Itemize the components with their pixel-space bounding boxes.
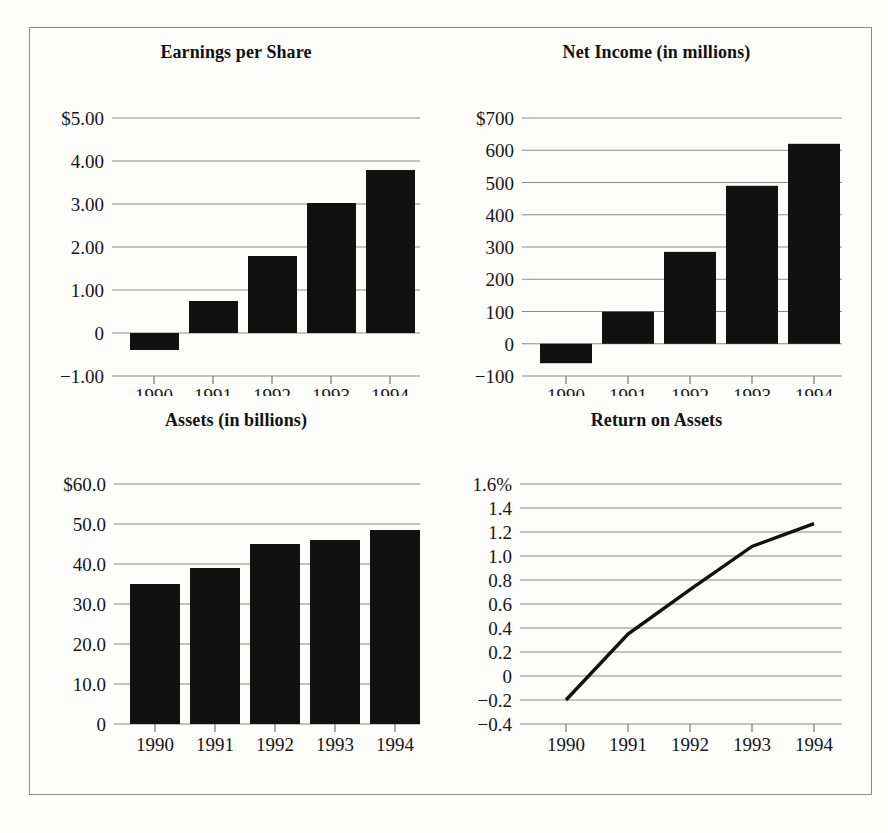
svg-text:0.2: 0.2	[488, 642, 512, 663]
svg-text:0.6: 0.6	[488, 594, 512, 615]
ytick-labels-ni: $700 600 500 400 300 200 100 0 −100	[475, 108, 514, 387]
bar-assets-1990	[130, 584, 180, 724]
chart-svg-eps: $5.00 4.00 3.00 2.00 1.00 0 −1.00	[30, 76, 442, 396]
svg-text:1.00: 1.00	[71, 280, 104, 301]
svg-text:1994: 1994	[376, 734, 415, 755]
bar-eps-1993	[307, 203, 356, 333]
svg-text:$60.0: $60.0	[63, 474, 106, 495]
xticks-ni	[566, 376, 814, 384]
ytick-labels-roa: 1.6% 1.4 1.2 1.0 0.8 0.6 0.4 0.2 0 −0.2 …	[472, 474, 512, 735]
xticks-eps	[154, 376, 390, 384]
svg-text:2.00: 2.00	[71, 237, 104, 258]
svg-text:1.6%: 1.6%	[472, 474, 512, 495]
bar-eps-1994	[366, 170, 415, 333]
panel-return-on-assets: Return on Assets	[442, 398, 871, 796]
panel-title-earnings-per-share: Earnings per Share	[30, 42, 442, 63]
plot-assets: $60.0 50.0 40.0 30.0 20.0 10.0 0	[30, 444, 442, 774]
svg-text:0: 0	[97, 714, 107, 735]
svg-text:0: 0	[505, 334, 515, 355]
bar-assets-1991	[190, 568, 240, 724]
svg-text:30.0: 30.0	[73, 594, 106, 615]
svg-text:1990: 1990	[135, 385, 173, 396]
line-series-roa	[566, 524, 814, 700]
panel-title-net-income: Net Income (in millions)	[442, 42, 871, 63]
svg-text:1993: 1993	[733, 385, 771, 396]
panel-title-assets: Assets (in billions)	[30, 410, 442, 431]
svg-text:100: 100	[486, 302, 515, 323]
bar-assets-1993	[310, 540, 360, 724]
bar-ni-1991	[602, 312, 654, 344]
figure-frame: Earnings per Share $5.00	[29, 27, 872, 795]
svg-text:−100: −100	[475, 366, 514, 387]
svg-text:1991: 1991	[196, 734, 234, 755]
figure-page: Earnings per Share $5.00	[0, 0, 888, 833]
bar-eps-1992	[248, 256, 297, 333]
svg-text:1994: 1994	[371, 385, 410, 396]
svg-text:1991: 1991	[609, 734, 647, 755]
svg-text:400: 400	[486, 205, 515, 226]
bar-assets-1992	[250, 544, 300, 724]
panel-title-return-on-assets: Return on Assets	[442, 410, 871, 431]
svg-text:1994: 1994	[795, 385, 834, 396]
svg-text:1992: 1992	[256, 734, 294, 755]
chart-svg-roa: 1.6% 1.4 1.2 1.0 0.8 0.6 0.4 0.2 0 −0.2 …	[442, 444, 871, 774]
svg-text:1994: 1994	[795, 734, 834, 755]
svg-text:300: 300	[486, 237, 515, 258]
xtick-labels-eps: 1990 1991 1992 1993 1994	[135, 385, 410, 396]
bars-ni	[540, 144, 840, 363]
plot-earnings-per-share: $5.00 4.00 3.00 2.00 1.00 0 −1.00	[30, 76, 442, 396]
plot-return-on-assets: 1.6% 1.4 1.2 1.0 0.8 0.6 0.4 0.2 0 −0.2 …	[442, 444, 871, 774]
svg-text:0: 0	[503, 666, 513, 687]
xtick-labels-ni: 1990 1991 1992 1993 1994	[547, 385, 834, 396]
svg-text:1992: 1992	[253, 385, 291, 396]
svg-text:1993: 1993	[312, 385, 350, 396]
svg-text:10.0: 10.0	[73, 674, 106, 695]
xticks-assets	[155, 724, 395, 732]
svg-text:50.0: 50.0	[73, 514, 106, 535]
bar-ni-1990	[540, 344, 592, 363]
svg-text:4.00: 4.00	[71, 151, 104, 172]
panel-net-income: Net Income (in millions)	[442, 28, 871, 398]
svg-text:1992: 1992	[671, 734, 709, 755]
svg-text:1990: 1990	[547, 734, 585, 755]
svg-text:1.4: 1.4	[488, 498, 512, 519]
bar-ni-1993	[726, 186, 778, 344]
svg-text:1992: 1992	[671, 385, 709, 396]
svg-text:1993: 1993	[316, 734, 354, 755]
xticks-roa	[566, 724, 814, 732]
svg-text:1990: 1990	[136, 734, 174, 755]
svg-text:1991: 1991	[194, 385, 232, 396]
bars-eps	[130, 170, 415, 350]
svg-text:0.8: 0.8	[488, 570, 512, 591]
svg-text:3.00: 3.00	[71, 194, 104, 215]
svg-text:$700: $700	[476, 108, 514, 129]
svg-text:200: 200	[486, 269, 515, 290]
ytick-labels-eps: $5.00 4.00 3.00 2.00 1.00 0 −1.00	[60, 108, 104, 387]
svg-text:1991: 1991	[609, 385, 647, 396]
svg-text:0.4: 0.4	[488, 618, 512, 639]
svg-text:1990: 1990	[547, 385, 585, 396]
bar-eps-1990	[130, 333, 179, 350]
plot-net-income: $700 600 500 400 300 200 100 0 −100	[442, 76, 871, 396]
svg-text:−0.2: −0.2	[478, 690, 512, 711]
svg-text:1993: 1993	[733, 734, 771, 755]
svg-text:−0.4: −0.4	[478, 714, 513, 735]
xtick-labels-assets: 1990 1991 1992 1993 1994	[136, 734, 415, 755]
svg-text:40.0: 40.0	[73, 554, 106, 575]
gridlines-roa	[520, 484, 842, 724]
panel-earnings-per-share: Earnings per Share $5.00	[30, 28, 442, 398]
chart-svg-assets: $60.0 50.0 40.0 30.0 20.0 10.0 0	[30, 444, 442, 774]
ytick-labels-assets: $60.0 50.0 40.0 30.0 20.0 10.0 0	[63, 474, 106, 735]
bar-eps-1991	[189, 301, 238, 333]
svg-text:600: 600	[486, 140, 515, 161]
svg-text:$5.00: $5.00	[61, 108, 104, 129]
svg-text:20.0: 20.0	[73, 634, 106, 655]
svg-text:1.2: 1.2	[488, 522, 512, 543]
bar-ni-1992	[664, 252, 716, 344]
svg-text:0: 0	[95, 323, 105, 344]
svg-text:1.0: 1.0	[488, 546, 512, 567]
svg-text:500: 500	[486, 173, 515, 194]
svg-text:−1.00: −1.00	[60, 366, 104, 387]
chart-svg-ni: $700 600 500 400 300 200 100 0 −100	[442, 76, 871, 396]
bars-assets	[130, 530, 420, 724]
